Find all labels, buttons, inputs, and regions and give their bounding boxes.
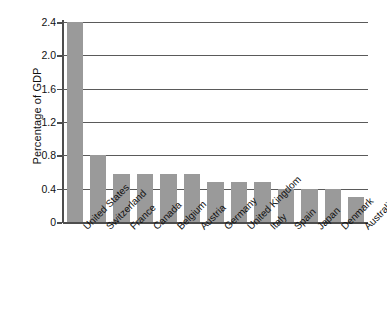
bar [67, 22, 83, 222]
x-axis-tick-label: Italy [268, 224, 276, 232]
x-axis-tick-label: Belgium [175, 224, 183, 232]
y-axis-tick-label: 1.6 [16, 83, 56, 95]
y-axis-tick [57, 222, 62, 224]
x-axis-tick-label: Denmark [339, 224, 347, 232]
x-axis-tick-label: Austria [198, 224, 206, 232]
x-axis-tick-label: Japan [315, 224, 323, 232]
y-axis-tick-label: 2.0 [16, 49, 56, 61]
y-axis-tick [57, 189, 62, 191]
x-axis-tick-label: Canada [151, 224, 159, 232]
y-axis-tick-label: 0 [16, 216, 56, 228]
y-axis-tick-label: 2.4 [16, 16, 56, 28]
x-axis-tick-label: Germany [222, 224, 230, 232]
bar-chart: Percentage of GDP 00.40.81.21.62.02.4 Un… [0, 0, 387, 311]
y-axis-tick-label: 0.8 [16, 149, 56, 161]
y-axis-tick [57, 155, 62, 157]
x-axis-tick-label: Australia [362, 224, 370, 232]
y-axis-tick [57, 22, 62, 24]
x-axis-tick-label: Switzerland [104, 224, 112, 232]
x-axis-tick-labels: United StatesSwitzerlandFranceCanadaBelg… [63, 224, 368, 311]
y-axis-tick [57, 55, 62, 57]
x-axis-tick-label: United Kingdom [245, 224, 253, 232]
x-axis-tick-label: France [128, 224, 136, 232]
y-axis-tick-label: 0.4 [16, 183, 56, 195]
y-axis-tick [57, 89, 62, 91]
x-axis-tick-label: Spain [292, 224, 300, 232]
bar-series [63, 22, 368, 222]
y-axis-tick [57, 122, 62, 124]
x-axis-tick-label: United States [81, 224, 89, 232]
y-axis-tick-label: 1.2 [16, 116, 56, 128]
